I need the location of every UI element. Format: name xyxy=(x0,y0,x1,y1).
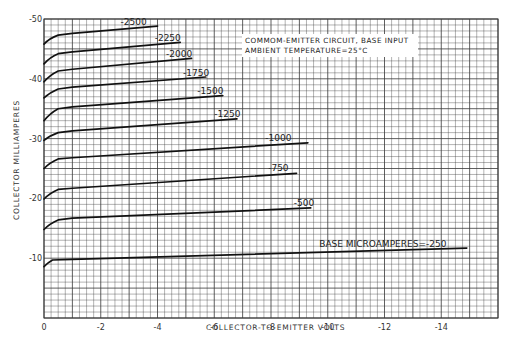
collector-characteristics-chart: COMMOM-EMITTER CIRCUIT, BASE INPUT AMBIE… xyxy=(0,0,517,352)
y-tick-label: -50 xyxy=(29,15,42,24)
curve-label: -2500 xyxy=(121,17,147,27)
y-tick-label: -10 xyxy=(29,254,42,263)
curve-label: -2000 xyxy=(166,49,192,59)
y-tick-label: -30 xyxy=(29,135,42,144)
curve-minus-1250 xyxy=(44,119,237,141)
curve-label: BASE MICROAMPERES=-250 xyxy=(319,239,446,249)
y-tick-label: -40 xyxy=(29,75,42,84)
annotation-line-1: COMMOM-EMITTER CIRCUIT, BASE INPUT xyxy=(245,36,409,45)
y-axis-ticks: -10-20-30-40-50 xyxy=(29,15,42,263)
curves xyxy=(44,26,467,266)
curve-minus-750 xyxy=(44,173,297,199)
x-tick-label: -2 xyxy=(97,323,105,332)
curve-label: -1750 xyxy=(183,68,209,78)
curve-minus-1750 xyxy=(44,77,206,98)
curve-label: -1500 xyxy=(197,86,223,96)
curve-minus-2000 xyxy=(44,58,192,81)
y-axis-title: COLLECTOR MILLIAMPERES xyxy=(12,100,21,220)
curve-label: -750 xyxy=(268,163,289,173)
y-tick-label: -20 xyxy=(29,194,42,203)
curve-minus-1500 xyxy=(44,96,223,121)
x-tick-label: 0 xyxy=(41,323,46,332)
x-tick-label: -14 xyxy=(435,323,448,332)
x-tick-label: -4 xyxy=(154,323,162,332)
x-tick-label: -12 xyxy=(378,323,391,332)
curve-label: -1250 xyxy=(214,109,240,119)
x-axis-title: COLLECTOR-TO-EMITTER VOLTS xyxy=(206,323,345,332)
curve-label: -1000 xyxy=(265,133,291,143)
curve-minus-250 xyxy=(44,248,467,267)
annotation-line-2: AMBIENT TEMPERATURE=25°C xyxy=(245,46,368,55)
curve-label: -2250 xyxy=(155,33,181,43)
curve-label: -500 xyxy=(294,198,315,208)
